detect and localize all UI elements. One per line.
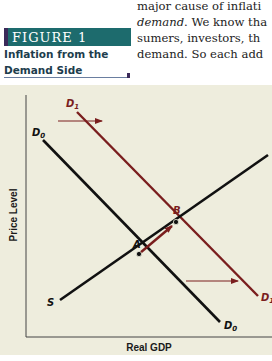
supply-demand-chart: D0 D0 D1 D1 S A B Real GDP Price Level xyxy=(0,0,272,361)
label-a: A xyxy=(132,239,141,250)
label-s: S xyxy=(47,297,54,308)
label-d1-top: D1 xyxy=(66,98,79,111)
label-d0-top: D0 xyxy=(32,127,45,140)
x-axis-label: Real GDP xyxy=(126,342,172,353)
point-a xyxy=(136,251,141,256)
label-d0-bottom: D0 xyxy=(224,320,237,333)
point-b xyxy=(173,219,178,224)
y-axis-label: Price Level xyxy=(8,188,19,241)
label-d1-bottom: D1 xyxy=(261,292,272,305)
supply-curve-s xyxy=(60,155,268,300)
label-b: B xyxy=(173,205,181,216)
